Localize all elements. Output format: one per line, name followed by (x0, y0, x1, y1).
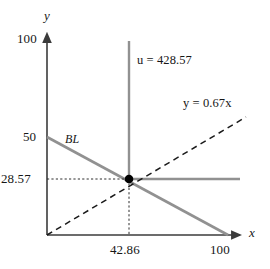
optimum-point-marker (125, 175, 134, 184)
utility-annotation: u = 428.57 (137, 54, 192, 67)
y-axis-label: y (44, 9, 50, 22)
x-axis-label: x (249, 226, 255, 239)
x-tick-label-42-86: 42.86 (110, 243, 140, 256)
budget-line-figure: y x 100 50 28.57 42.86 100 u = 428.57 y … (0, 0, 270, 269)
y-tick-label-50: 50 (23, 130, 36, 143)
budget-line (47, 137, 228, 235)
ray-equation-annotation: y = 0.67x (183, 97, 232, 110)
y-tick-label-28-57: 28.57 (1, 172, 31, 185)
y-tick-label-100: 100 (17, 32, 37, 45)
x-tick-label-100: 100 (210, 243, 230, 256)
budget-line-annotation: BL (65, 133, 79, 145)
plot-canvas (0, 0, 270, 269)
